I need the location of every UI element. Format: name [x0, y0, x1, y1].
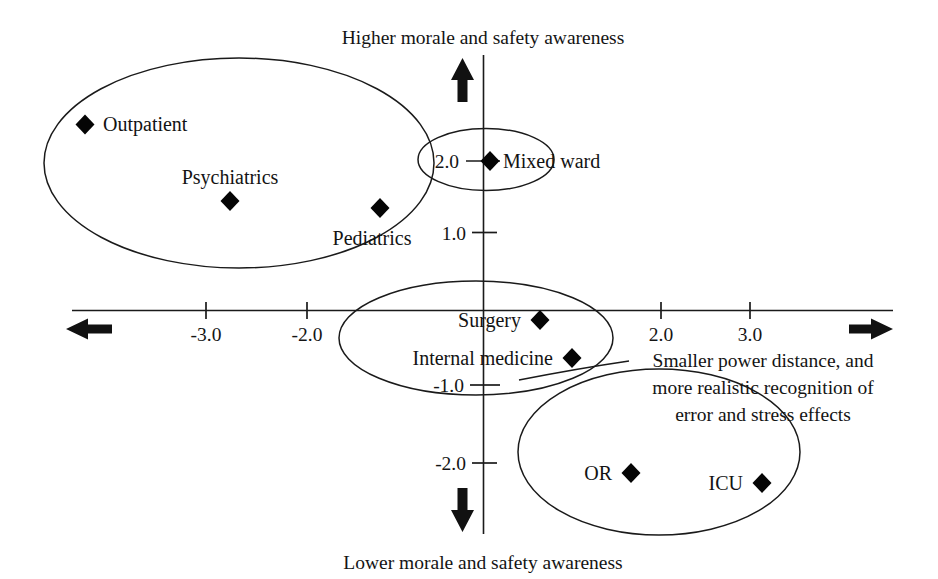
point-marker-pediatrics [371, 198, 390, 218]
point-label-outpatient: Outpatient [103, 113, 188, 136]
y-axis-top-caption: Higher morale and safety awareness [342, 27, 625, 48]
point-marker-or [622, 463, 641, 483]
annotation-line-1: Smaller power distance, and [653, 350, 874, 371]
point-marker-surgery [531, 310, 550, 330]
point-marker-internal-medicine [563, 348, 582, 368]
data-points: Outpatient Psychiatrics Pediatrics Mixed… [76, 113, 772, 494]
point-label-icu: ICU [709, 472, 744, 494]
point-label-or: OR [584, 462, 612, 484]
annotation-line-2: more realistic recognition of [652, 377, 874, 398]
arrow-right-icon [849, 319, 893, 340]
x-tick-label--3.0: -3.0 [191, 324, 222, 345]
plot-canvas: Higher morale and safety awareness Lower… [0, 0, 938, 579]
arrow-left-icon [66, 319, 112, 340]
y-tick-label-1.0: 1.0 [442, 223, 466, 244]
x-tick-label-3.0: 3.0 [738, 324, 762, 345]
arrow-up-icon [451, 58, 474, 102]
point-marker-icu [753, 473, 772, 493]
acute-care-cluster-ellipse [339, 281, 613, 395]
point-label-psychiatrics: Psychiatrics [182, 166, 279, 189]
annotation-line-3: error and stress effects [675, 404, 851, 425]
point-label-internal-medicine: Internal medicine [413, 347, 554, 369]
x-axis-annotation: Smaller power distance, and more realist… [652, 350, 874, 425]
y-axis-bottom-caption: Lower morale and safety awareness [343, 552, 622, 573]
x-tick-label--2.0: -2.0 [292, 324, 323, 345]
scatter-plot-figure: Higher morale and safety awareness Lower… [0, 0, 938, 579]
y-tick-label--1.0: -1.0 [433, 375, 464, 396]
point-label-mixed-ward: Mixed ward [503, 150, 600, 172]
point-marker-outpatient [76, 115, 95, 135]
point-marker-psychiatrics [221, 191, 240, 211]
y-tick-label--2.0: -2.0 [435, 453, 466, 474]
y-tick-label-2.0: 2.0 [435, 151, 459, 172]
point-label-pediatrics: Pediatrics [333, 227, 412, 249]
arrow-down-icon [451, 488, 474, 532]
point-label-surgery: Surgery [458, 309, 521, 332]
x-tick-label-2.0: 2.0 [649, 324, 673, 345]
